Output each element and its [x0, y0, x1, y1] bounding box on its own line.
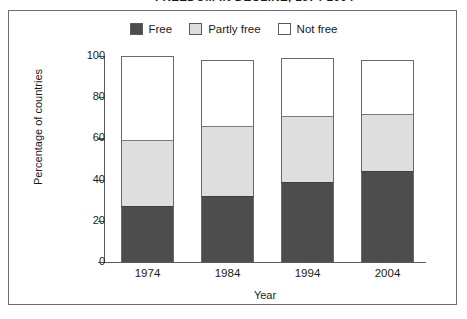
- plot-area: Percentage of countries 020406080100 197…: [9, 11, 458, 306]
- y-tick-label-60: 60: [75, 131, 105, 143]
- y-axis-title: Percentage of countries: [32, 32, 44, 222]
- bar-segment-1984-not-free[interactable]: [201, 60, 254, 126]
- y-tick-label-20: 20: [75, 214, 105, 226]
- bar-segment-1984-free[interactable]: [201, 196, 254, 262]
- bar-group-1994[interactable]: [281, 56, 334, 262]
- bar-segment-1994-free[interactable]: [281, 182, 334, 262]
- figure-frame: Free Partly free Not free Percentage of …: [8, 10, 457, 305]
- bar-group-1974[interactable]: [121, 56, 174, 262]
- y-tick-label-80: 80: [75, 90, 105, 102]
- bar-stack-1994: [281, 58, 334, 262]
- bar-group-1984[interactable]: [201, 56, 254, 262]
- x-tick-label-2004: 2004: [361, 267, 414, 279]
- bar-segment-1984-partly-free[interactable]: [201, 126, 254, 196]
- y-axis-line: [104, 56, 105, 263]
- chart-title-strip: FREEDOM IN DECLINE, 1974-2004: [0, 0, 467, 9]
- bar-segment-1994-partly-free[interactable]: [281, 116, 334, 182]
- y-tick-label-0: 0: [75, 255, 105, 267]
- bar-group-2004[interactable]: [361, 56, 414, 262]
- bar-segment-1974-free[interactable]: [121, 206, 174, 262]
- page-title: FREEDOM IN DECLINE, 1974-2004: [155, 0, 354, 3]
- bar-stack-1974: [121, 56, 174, 262]
- y-tick-label-40: 40: [75, 173, 105, 185]
- bar-segment-1994-not-free[interactable]: [281, 58, 334, 116]
- x-axis-line: [104, 262, 426, 263]
- y-tick-label-100: 100: [75, 49, 105, 61]
- bar-stack-1984: [201, 60, 254, 262]
- bar-segment-1974-not-free[interactable]: [121, 56, 174, 140]
- bar-segment-2004-not-free[interactable]: [361, 60, 414, 114]
- x-tick-label-1974: 1974: [121, 267, 174, 279]
- x-axis-title: Year: [104, 289, 426, 301]
- bar-segment-1974-partly-free[interactable]: [121, 140, 174, 206]
- x-tick-label-1984: 1984: [201, 267, 254, 279]
- bar-stack-2004: [361, 60, 414, 262]
- x-tick-label-1994: 1994: [281, 267, 334, 279]
- bar-segment-2004-partly-free[interactable]: [361, 114, 414, 172]
- bar-segment-2004-free[interactable]: [361, 171, 414, 262]
